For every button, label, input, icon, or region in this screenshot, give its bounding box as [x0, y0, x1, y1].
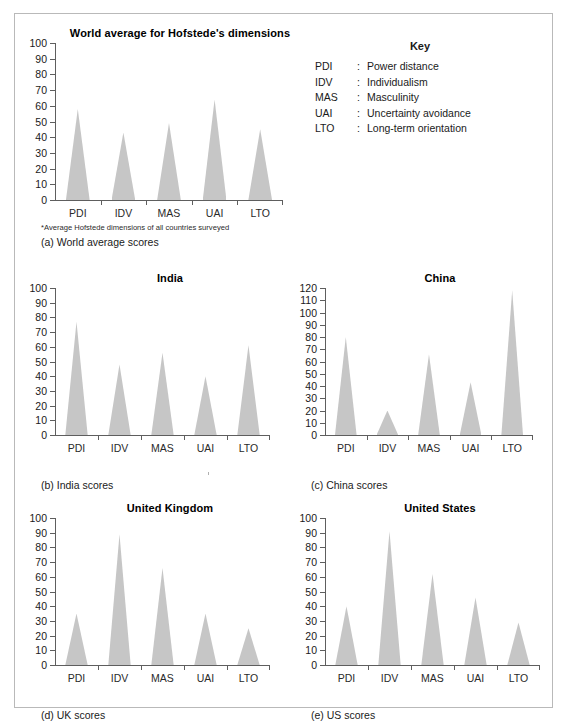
key-description: Power distance — [367, 59, 525, 75]
y-axis-tick-label: 20 — [305, 630, 317, 642]
y-axis-tick — [320, 288, 325, 289]
y-axis-tick-label: 40 — [305, 380, 317, 392]
spike-bar — [108, 364, 130, 435]
y-axis-tick — [320, 592, 325, 593]
chart-title-uk: United Kingdom — [55, 502, 285, 514]
x-axis-category-label: IDV — [381, 672, 399, 684]
y-axis-tick-label: 80 — [35, 311, 47, 323]
spike-bar — [194, 614, 216, 665]
figure-china: China 0102030405060708090100110120PDIIDV… — [325, 272, 555, 436]
x-axis-tick — [141, 436, 142, 440]
x-axis-tick — [269, 666, 270, 670]
key-abbr: MAS — [315, 90, 357, 106]
y-axis-tick — [50, 533, 55, 534]
y-axis-tick — [50, 577, 55, 578]
x-axis-category-label: UAI — [206, 207, 224, 219]
y-axis-tick-label: 30 — [305, 615, 317, 627]
y-axis-tick-label: 0 — [41, 429, 47, 441]
y-axis-tick — [320, 398, 325, 399]
x-axis-tick — [98, 666, 99, 670]
y-axis-tick-label: 50 — [305, 586, 317, 598]
y-axis-tick-label: 50 — [305, 368, 317, 380]
y-axis-tick-label: 50 — [35, 116, 47, 128]
y-axis-tick — [50, 59, 55, 60]
y-axis-tick-label: 10 — [35, 644, 47, 656]
key-legend-box: Key PDI : Power distance IDV : Individua… — [315, 40, 525, 137]
y-axis-line — [55, 288, 56, 436]
y-axis-tick — [50, 106, 55, 107]
x-axis-category-label: PDI — [68, 442, 86, 454]
y-axis-tick-label: 0 — [311, 659, 317, 671]
x-axis-category-label: IDV — [115, 207, 133, 219]
x-axis-category-label: LTO — [250, 207, 269, 219]
spike-bar — [421, 574, 443, 665]
y-axis-line — [55, 518, 56, 666]
spike-bar — [66, 109, 90, 200]
y-axis-tick-label: 60 — [35, 571, 47, 583]
y-axis-tick — [50, 406, 55, 407]
plot-area-india: 0102030405060708090100PDIIDVMASUAILTO — [55, 288, 270, 436]
key-abbr: UAI — [315, 106, 357, 122]
x-axis-tick — [491, 436, 492, 440]
y-axis-tick — [50, 200, 55, 201]
y-axis-tick-label: 20 — [35, 400, 47, 412]
y-axis-tick — [320, 518, 325, 519]
x-axis-tick — [237, 201, 238, 205]
caption-world: (a) World average scores — [41, 236, 159, 248]
y-axis-tick — [320, 313, 325, 314]
y-axis-tick — [50, 303, 55, 304]
spike-bar — [507, 622, 529, 665]
y-axis-tick-label: 30 — [35, 385, 47, 397]
y-axis-tick — [50, 184, 55, 185]
x-axis-tick — [101, 201, 102, 205]
spike-bar — [65, 614, 87, 665]
key-separator: : — [357, 106, 367, 122]
figure-world-average: World average for Hofstede's dimensions … — [55, 27, 305, 201]
chart-title-world: World average for Hofstede's dimensions — [55, 27, 305, 39]
y-axis-tick — [50, 621, 55, 622]
x-axis-tick — [368, 666, 369, 670]
chart-title-us: United States — [325, 502, 555, 514]
y-axis-tick-label: 100 — [299, 512, 317, 524]
y-axis-tick-label: 50 — [35, 356, 47, 368]
y-axis-tick — [320, 423, 325, 424]
y-axis-tick — [320, 386, 325, 387]
x-axis-tick — [269, 436, 270, 440]
y-axis-tick-label: 100 — [29, 512, 47, 524]
y-axis-tick-label: 0 — [41, 659, 47, 671]
y-axis-tick — [50, 288, 55, 289]
y-axis-tick — [320, 606, 325, 607]
key-row: MAS : Masculinity — [315, 90, 525, 106]
spike-bar — [157, 123, 181, 200]
chart-title-india: India — [55, 272, 285, 284]
y-axis-tick — [50, 376, 55, 377]
key-title: Key — [315, 40, 525, 52]
key-description: Uncertainty avoidance — [367, 106, 525, 122]
y-axis-tick — [320, 362, 325, 363]
y-axis-tick-label: 20 — [35, 630, 47, 642]
x-axis-tick — [408, 436, 409, 440]
y-axis-tick — [320, 650, 325, 651]
x-axis-tick — [454, 666, 455, 670]
y-axis-tick — [320, 562, 325, 563]
y-axis-tick — [50, 169, 55, 170]
spike-bar — [194, 376, 216, 435]
spike-bar — [335, 337, 357, 435]
x-axis-line — [55, 665, 270, 666]
y-axis-line — [325, 288, 326, 436]
y-axis-tick — [320, 621, 325, 622]
x-axis-tick — [282, 201, 283, 205]
key-description: Long-term orientation — [367, 121, 525, 137]
x-axis-tick — [411, 666, 412, 670]
y-axis-tick-label: 70 — [35, 84, 47, 96]
y-axis-tick-label: 40 — [35, 600, 47, 612]
y-axis-tick-label: 30 — [305, 392, 317, 404]
y-axis-tick — [320, 435, 325, 436]
print-artifact-dot — [208, 472, 209, 475]
y-axis-tick — [50, 90, 55, 91]
plot-area-world: 0102030405060708090100PDIIDVMASUAILTO — [55, 43, 283, 201]
y-axis-tick — [50, 362, 55, 363]
spike-bar — [377, 411, 399, 436]
spike-bar — [237, 345, 259, 435]
y-axis-tick-label: 90 — [35, 53, 47, 65]
